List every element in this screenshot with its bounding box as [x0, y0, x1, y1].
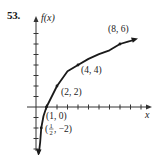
curve-arrow-right-icon	[131, 38, 138, 43]
label-point-2-2: (2, 2)	[61, 87, 82, 98]
point-4-4	[77, 64, 80, 67]
graph: f(x) x (8, 6) (4, 4) (2, 2) (1, 0) ( 1 2…	[0, 0, 168, 155]
point-half-neg2	[40, 127, 43, 130]
svg-text:2: 2	[50, 129, 53, 136]
svg-text:1: 1	[50, 122, 53, 129]
curve-arrow-down-icon	[36, 149, 42, 155]
x-axis-label: x	[144, 109, 150, 120]
y-axis-arrow-icon	[34, 16, 39, 22]
label-point-8-6: (8, 6)	[108, 24, 129, 35]
point-8-6	[119, 43, 122, 46]
point-1-0	[45, 106, 48, 109]
svg-text:(: (	[45, 124, 48, 135]
label-point-half-neg2: ( 1 2 , −2)	[45, 122, 72, 137]
y-axis-label: f(x)	[41, 12, 56, 24]
y-axis	[34, 16, 39, 151]
label-point-1-0: (1, 0)	[46, 111, 67, 122]
svg-text:, −2): , −2)	[54, 124, 72, 135]
label-point-4-4: (4, 4)	[81, 65, 102, 76]
point-2-2	[56, 85, 59, 88]
function-curve	[39, 40, 134, 153]
